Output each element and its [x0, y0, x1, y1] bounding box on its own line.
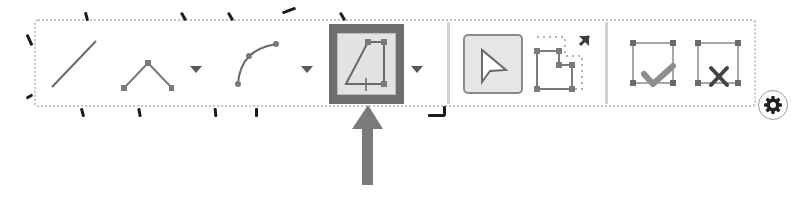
toolbar-separator [605, 22, 608, 104]
line-icon [48, 36, 100, 92]
select-tool-button[interactable]: Select [463, 34, 523, 94]
frame-tick [282, 7, 296, 15]
frame-tick [26, 93, 34, 99]
chevron-down-icon [301, 66, 313, 74]
arc-icon [232, 38, 282, 88]
polyline-icon [118, 56, 174, 92]
finish-sketch-check-icon [628, 38, 678, 90]
settings-button[interactable] [758, 90, 788, 120]
polyline-tool-button[interactable]: Polyline [118, 56, 174, 92]
frame-tick [26, 34, 34, 46]
toolbar-separator [447, 22, 450, 104]
annotation-arrow [352, 105, 384, 189]
line-tool-button[interactable]: Line [48, 36, 100, 92]
frame-tick [80, 108, 85, 117]
arc-tool-button[interactable]: Arc [232, 38, 282, 88]
polyline-dropdown-button[interactable] [190, 60, 202, 78]
polygon-tool-button[interactable]: Polygon [329, 24, 404, 104]
finish-sketch-button[interactable]: Finish Sketch [628, 38, 678, 90]
polygon-icon [338, 34, 395, 94]
up-arrow-icon [352, 105, 384, 185]
frame-tick [255, 108, 258, 117]
edit-vertices-tool-button[interactable]: Edit Vertices [532, 32, 592, 92]
cancel-sketch-button[interactable]: Cancel Sketch [693, 38, 743, 90]
frame-tick [137, 108, 142, 117]
arc-dropdown-button[interactable] [301, 60, 313, 78]
polygon-tool-active-bg: Polygon [337, 33, 396, 95]
edit-vertices-icon [532, 32, 592, 92]
chevron-down-icon [411, 66, 423, 74]
frame-tick [428, 114, 445, 117]
cancel-sketch-x-icon [693, 38, 743, 90]
frame-tick [214, 108, 218, 117]
gear-icon [759, 91, 787, 119]
chevron-down-icon [190, 66, 202, 74]
cursor-arrow-icon [465, 36, 521, 92]
polygon-dropdown-button[interactable] [411, 60, 423, 78]
